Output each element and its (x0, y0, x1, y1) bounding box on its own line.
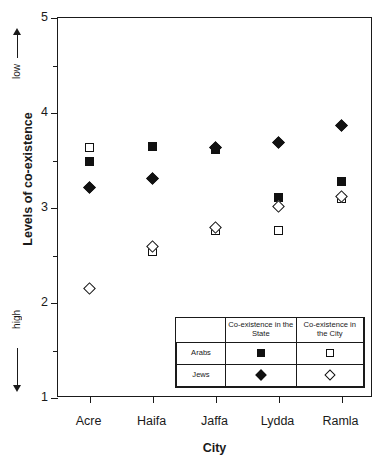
data-point-filled-square (337, 177, 346, 186)
coexistence-scatter-chart: low high Levels of co-existence City 123… (0, 0, 389, 468)
x-tick (279, 396, 280, 403)
y-tick-minor (53, 66, 58, 67)
data-point-open-square (274, 226, 283, 235)
data-point-filled-diamond (146, 172, 159, 185)
legend-marker-arabs-state (226, 343, 297, 365)
y-tick-major (51, 208, 58, 209)
y-tick-label: 2 (30, 296, 48, 309)
y-tick-label: 3 (30, 201, 48, 214)
x-tick-label-ramla: Ramla (301, 414, 381, 428)
y-tick-label: 1 (30, 391, 48, 404)
legend-header-row: Co-existence in the State Co-existence i… (177, 318, 364, 343)
open-square-icon (326, 349, 334, 357)
y-tick-label: 5 (30, 11, 48, 24)
legend-marker-arabs-city (296, 343, 363, 365)
legend-row-jews: Jews (177, 365, 364, 387)
x-tick (342, 396, 343, 403)
y-tick-label: 4 (30, 106, 48, 119)
legend-column-header-city: Co-existence in the City (296, 318, 363, 343)
data-point-filled-square (148, 142, 157, 151)
legend-row-label-jews: Jews (177, 365, 226, 387)
filled-diamond-icon (255, 369, 266, 380)
x-axis-title: City (57, 441, 372, 455)
legend-marker-jews-state (226, 365, 297, 387)
legend-corner-cell (177, 318, 226, 343)
legend-row-arabs: Arabs (177, 343, 364, 365)
y-direction-low-label: low (12, 64, 22, 79)
legend-marker-jews-city (296, 365, 363, 387)
y-direction-high-label: high (12, 310, 22, 329)
y-tick-major (51, 18, 58, 19)
y-tick-major (51, 113, 58, 114)
legend-column-header-state: Co-existence in the State (226, 318, 297, 343)
data-point-open-diamond (83, 282, 96, 295)
y-tick-minor (53, 256, 58, 257)
y-tick-major (51, 398, 58, 399)
open-diamond-icon (324, 369, 335, 380)
down-arrow-icon (13, 385, 21, 392)
y-tick-major (51, 303, 58, 304)
y-tick-minor (53, 161, 58, 162)
chart-legend: Co-existence in the State Co-existence i… (175, 317, 365, 388)
data-point-filled-diamond (272, 136, 285, 149)
legend-row-label-arabs: Arabs (177, 343, 226, 365)
y-tick-minor (53, 351, 58, 352)
x-tick (90, 396, 91, 403)
filled-square-icon (257, 349, 265, 357)
x-tick (153, 396, 154, 403)
data-point-open-square (85, 143, 94, 152)
up-arrow-line (17, 34, 18, 58)
data-point-filled-diamond (83, 181, 96, 194)
data-point-filled-square (85, 157, 94, 166)
x-tick (216, 396, 217, 403)
down-arrow-line (17, 348, 18, 386)
data-point-filled-diamond (335, 119, 348, 132)
